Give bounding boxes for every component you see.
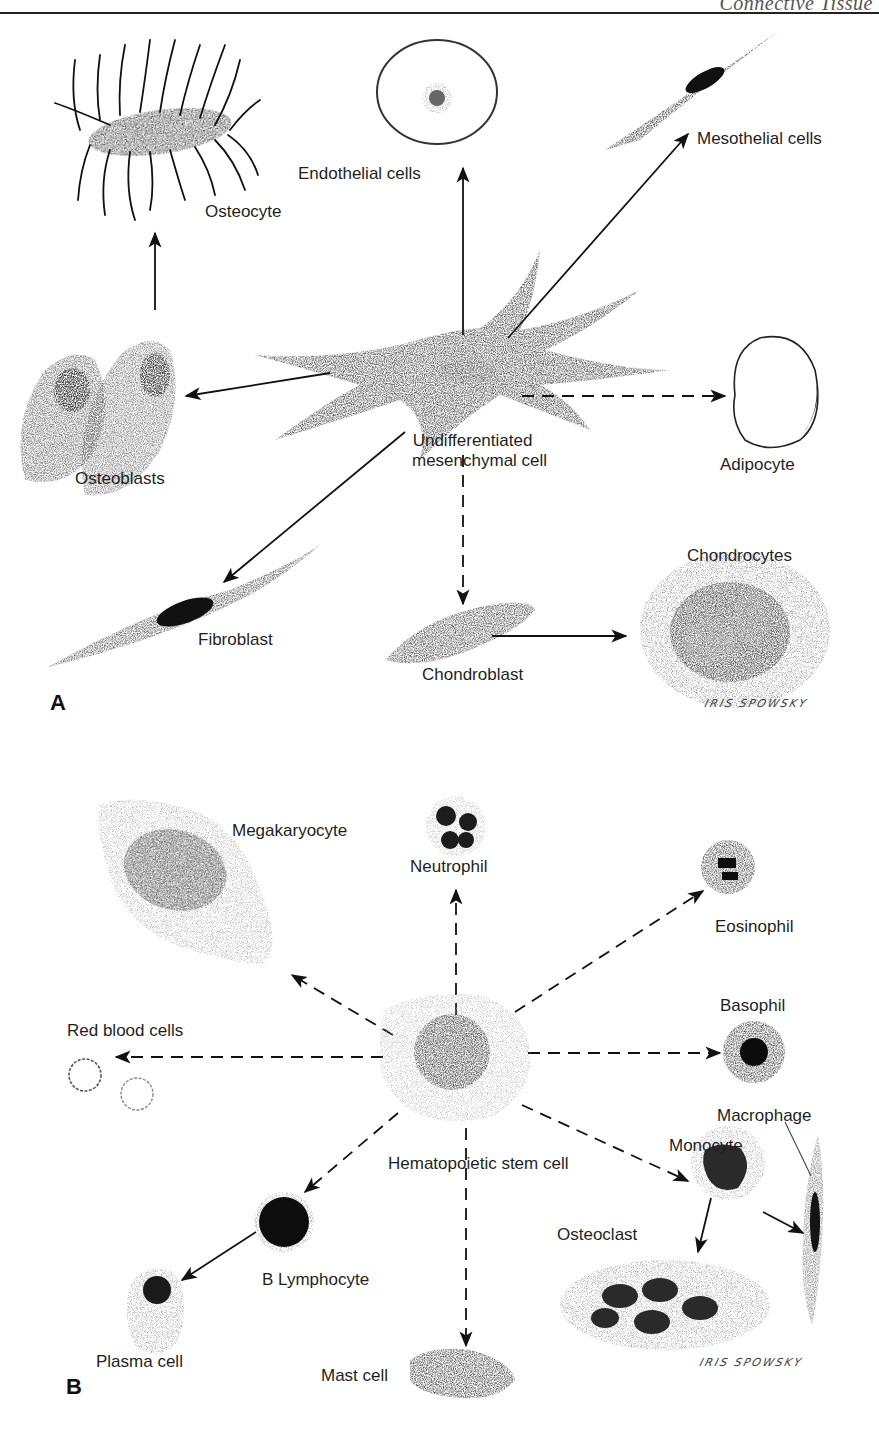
label-mast-cell: Mast cell <box>321 1366 388 1386</box>
arrow-dashed-to-eosinophil <box>515 891 703 1012</box>
label-osteocyte: Osteocyte <box>205 202 282 222</box>
mast-cell-drawing <box>410 1349 515 1398</box>
endothelial-cell-drawing <box>377 40 497 144</box>
osteoclast-drawing <box>560 1260 770 1350</box>
label-macrophage: Macrophage <box>717 1106 812 1126</box>
red-blood-cells-drawing <box>69 1059 153 1110</box>
fibroblast-drawing <box>48 545 320 667</box>
label-endothelial-cells: Endothelial cells <box>298 164 421 184</box>
neutrophil-drawing <box>426 796 486 856</box>
chondroblast-drawing <box>385 603 535 664</box>
chondrocytes-drawing <box>640 552 830 708</box>
osteocyte-drawing <box>55 40 260 220</box>
panel-b-letter: B <box>66 1374 82 1400</box>
diagram-artwork <box>0 0 879 1449</box>
label-monocyte: Monocyte <box>669 1136 743 1156</box>
label-hematopoietic-stem-cell: Hematopoietic stem cell <box>388 1154 568 1174</box>
arrow-monocyte-to-osteoclast <box>698 1198 711 1252</box>
label-mesothelial-cells: Mesothelial cells <box>697 129 822 149</box>
b-lymphocyte-drawing <box>254 1192 314 1252</box>
label-fibroblast: Fibroblast <box>198 630 273 650</box>
label-basophil: Basophil <box>720 996 785 1016</box>
label-plasma-cell: Plasma cell <box>96 1352 183 1372</box>
adipocyte-drawing <box>734 337 818 448</box>
arrow-to-fibroblast <box>224 432 405 582</box>
label-megakaryocyte: Megakaryocyte <box>232 821 347 841</box>
label-adipocyte: Adipocyte <box>720 455 795 475</box>
label-chondrocytes: Chondrocytes <box>687 546 792 566</box>
artist-signature-b: IRIS SPOWSKY <box>698 1356 804 1369</box>
hematopoietic-stem-cell-drawing <box>379 994 530 1121</box>
arrow-monocyte-to-macrophage <box>763 1212 803 1233</box>
plasma-cell-drawing <box>127 1269 184 1354</box>
label-red-blood-cells: Red blood cells <box>67 1021 183 1041</box>
label-osteoblasts: Osteoblasts <box>75 469 165 489</box>
label-b-lymphocyte: B Lymphocyte <box>262 1270 369 1290</box>
label-osteoclast: Osteoclast <box>557 1225 637 1245</box>
panel-a-letter: A <box>50 690 66 716</box>
basophil-drawing <box>723 1021 785 1083</box>
label-neutrophil: Neutrophil <box>410 857 488 877</box>
artist-signature-a: IRIS SPOWSKY <box>703 697 809 710</box>
label-eosinophil: Eosinophil <box>715 917 793 937</box>
label-mesenchymal-line1: Undifferentiated <box>398 431 547 451</box>
arrow-dashed-to-megakaryocyte <box>292 975 393 1035</box>
macrophage-leader-line <box>785 1122 811 1176</box>
arrow-to-osteoblasts <box>186 373 330 396</box>
arrow-to-mesothelial <box>508 134 688 338</box>
eosinophil-drawing <box>701 840 755 894</box>
label-mesenchymal-cell: Undifferentiated mesenchymal cell <box>398 431 547 470</box>
arrow-dashed-to-b-lymphocyte <box>305 1113 398 1192</box>
label-chondroblast: Chondroblast <box>422 665 523 685</box>
label-mesenchymal-line2: mesenchymal cell <box>398 451 547 471</box>
arrow-b-lymphocyte-to-plasma-cell <box>182 1232 256 1280</box>
